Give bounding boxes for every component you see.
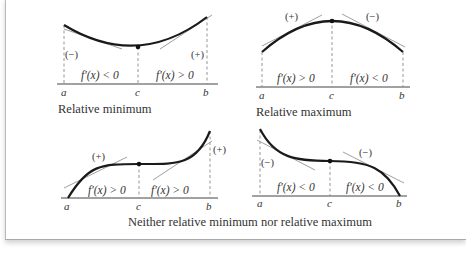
caption-neither: Neither relative minimum nor relative ma… xyxy=(128,215,372,229)
left-slope-sign: (+) xyxy=(92,151,105,163)
label-b: b xyxy=(399,89,405,101)
right-derivative-label: f′(x) < 0 xyxy=(350,72,388,85)
label-a: a xyxy=(61,86,67,98)
curve xyxy=(64,17,207,46)
panel-decreasing-inflection: (−) (−) f′(x) < 0 f′(x) < 0 a c b xyxy=(252,129,407,209)
label-a: a xyxy=(64,200,70,212)
left-slope-sign: (−) xyxy=(65,49,78,61)
caption-relative-maximum: Relative maximum xyxy=(256,105,352,119)
left-derivative-label: f′(x) < 0 xyxy=(277,181,315,194)
critical-point xyxy=(137,162,142,167)
label-b: b xyxy=(396,197,402,209)
label-b: b xyxy=(203,86,209,98)
left-derivative-label: f′(x) > 0 xyxy=(277,72,315,85)
panel-relative-minimum: (−) (+) f′(x) < 0 f′(x) > 0 a c b Relati… xyxy=(57,15,218,116)
label-a: a xyxy=(259,89,265,101)
right-derivative-label: f′(x) > 0 xyxy=(151,184,189,197)
right-derivative-label: f′(x) < 0 xyxy=(346,181,384,194)
label-c: c xyxy=(327,197,332,209)
critical-point xyxy=(136,45,141,50)
curve xyxy=(262,21,403,52)
critical-point xyxy=(328,159,333,164)
label-b: b xyxy=(206,200,212,212)
right-slope-sign: (−) xyxy=(359,147,372,159)
left-derivative-label: f′(x) < 0 xyxy=(81,69,119,82)
label-c: c xyxy=(136,200,141,212)
right-slope-sign: (−) xyxy=(366,11,379,23)
panel-relative-maximum: (+) (−) f′(x) > 0 f′(x) < 0 a c b Relati… xyxy=(256,11,410,119)
caption-relative-minimum: Relative minimum xyxy=(58,102,152,116)
left-slope-sign: (−) xyxy=(261,157,274,169)
left-derivative-label: f′(x) > 0 xyxy=(88,184,126,197)
label-a: a xyxy=(257,197,263,209)
right-slope-sign: (+) xyxy=(213,144,226,156)
right-slope-sign: (+) xyxy=(191,49,204,61)
label-c: c xyxy=(135,86,140,98)
label-c: c xyxy=(329,89,334,101)
panel-increasing-inflection: (+) (+) f′(x) > 0 f′(x) > 0 a c b xyxy=(61,131,226,212)
critical-point xyxy=(330,19,335,24)
right-derivative-label: f′(x) > 0 xyxy=(156,69,194,82)
left-slope-sign: (+) xyxy=(285,11,298,23)
